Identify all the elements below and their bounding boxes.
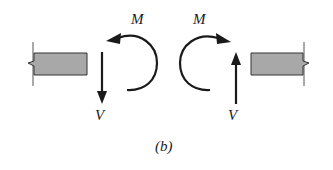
figure-caption: (b) [155, 139, 173, 154]
left-moment-label: M [131, 12, 144, 27]
left-shear-arrow-icon [97, 52, 107, 104]
left-shear-label: V [95, 108, 104, 123]
left-beam-segment [28, 42, 87, 86]
left-moment-arc-icon [106, 33, 157, 90]
right-moment-arc-icon [180, 33, 231, 90]
right-moment-label: M [193, 12, 206, 27]
right-beam-segment [251, 42, 309, 86]
shear-moment-diagram: M V M V (b) [0, 0, 333, 170]
right-shear-arrow-icon [231, 52, 241, 104]
right-shear-label: V [228, 108, 237, 123]
